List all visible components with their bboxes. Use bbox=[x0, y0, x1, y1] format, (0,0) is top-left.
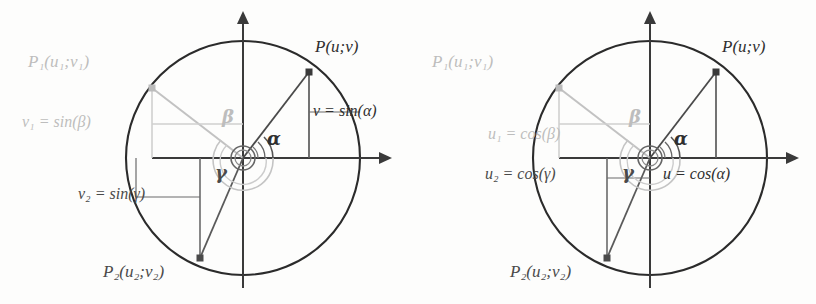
point-marker-p1-right bbox=[556, 85, 563, 92]
point-label-p-left: P(u;v) bbox=[315, 37, 358, 57]
value-label-u1-cos-beta-right: u₁ = cos(β) bbox=[488, 125, 560, 143]
value-label-u-cos-alpha-right: u = cos(α) bbox=[663, 165, 730, 183]
angle-arc-alpha-inner-right bbox=[665, 142, 672, 158]
y-axis-arrowhead-right bbox=[644, 11, 656, 24]
point-label-p-right: P(u;v) bbox=[722, 37, 765, 57]
value-label-v-sin-alpha-left: v = sin(α) bbox=[313, 102, 377, 120]
point-marker-p2-right bbox=[604, 255, 611, 262]
angle-label-beta-left: β bbox=[222, 106, 234, 127]
y-axis-arrowhead-left bbox=[237, 11, 249, 24]
angle-label-gamma-right: γ bbox=[622, 162, 634, 183]
angle-label-alpha-right: α bbox=[674, 128, 688, 149]
point-label-p2-left: P₂(u₂;v₂) bbox=[103, 262, 164, 282]
angle-label-gamma-left: γ bbox=[215, 162, 227, 183]
point-marker-p1-left bbox=[149, 85, 156, 92]
value-label-v1-sin-beta-left: v₁ = sin(β) bbox=[22, 113, 91, 131]
figure-canvas: P(u;v) P₁(u₁;v₁) P₂(u₂;v₂) α β γ v = sin… bbox=[0, 0, 816, 304]
point-marker-p2-left bbox=[197, 255, 204, 262]
angle-arc-alpha-inner-left bbox=[258, 142, 265, 158]
angle-label-alpha-left: α bbox=[267, 128, 281, 149]
diagram-vector-layer bbox=[0, 0, 816, 304]
point-label-p1-right: P₁(u₁;v₁) bbox=[432, 52, 493, 72]
angle-label-beta-right: β bbox=[629, 106, 641, 127]
x-axis-arrowhead-right bbox=[786, 152, 799, 164]
point-label-p2-right: P₂(u₂;v₂) bbox=[510, 262, 571, 282]
value-label-u2-cos-gamma-right: u₂ = cos(γ) bbox=[485, 165, 556, 183]
point-marker-p-left bbox=[306, 69, 313, 76]
point-label-p1-left: P₁(u₁;v₁) bbox=[28, 52, 89, 72]
point-marker-p-right bbox=[713, 69, 720, 76]
x-axis-arrowhead-left bbox=[379, 152, 392, 164]
value-label-v2-sin-gamma-left: v₂ = sin(γ) bbox=[78, 185, 145, 203]
